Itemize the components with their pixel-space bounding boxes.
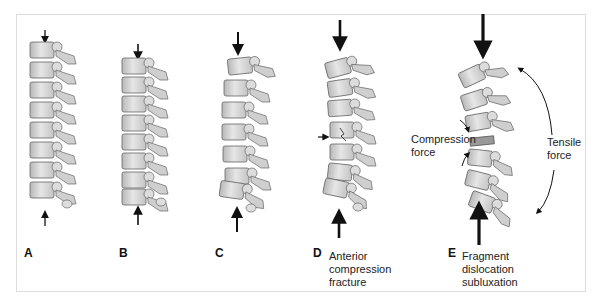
tensile-force-label: Tensile force [547,136,581,162]
caption-e: Fragment dislocation subluxation [462,250,518,289]
panel-d-spine [318,20,376,238]
panel-label-b: B [119,246,128,260]
panel-e-spine [458,14,554,245]
panel-label-c: C [215,246,224,260]
panel-c-spine [218,32,275,232]
compression-force-label: Compression force [411,133,476,159]
caption-d: Anterior compression fracture [329,250,391,289]
panel-label-e: E [448,246,456,260]
panel-label-d: D [313,246,322,260]
panel-label-a: A [24,246,33,260]
panel-b-spine [122,44,168,225]
panel-a-spine [30,30,76,226]
